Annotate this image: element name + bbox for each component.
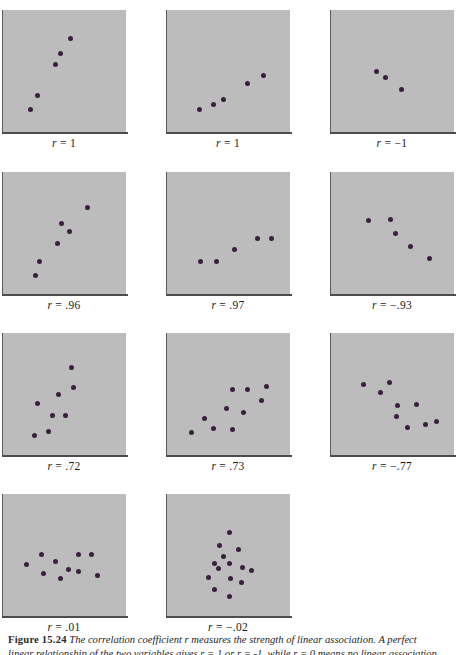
panel-correlation-label: r = .01 bbox=[2, 621, 126, 633]
data-point bbox=[236, 547, 241, 552]
data-point bbox=[383, 75, 388, 80]
data-point bbox=[230, 427, 235, 432]
data-point bbox=[35, 401, 40, 406]
data-point bbox=[50, 413, 55, 418]
panel-correlation-label: r = −.93 bbox=[330, 299, 454, 311]
data-point bbox=[66, 567, 71, 572]
data-point bbox=[427, 256, 432, 261]
scatter-plot-area bbox=[330, 333, 454, 456]
data-point bbox=[374, 69, 379, 74]
data-point bbox=[59, 221, 64, 226]
data-point bbox=[206, 575, 211, 580]
data-point bbox=[76, 569, 81, 574]
data-point bbox=[39, 552, 44, 557]
data-point bbox=[212, 587, 217, 592]
panel-correlation-label: r = 1 bbox=[166, 137, 290, 149]
data-point bbox=[245, 81, 250, 86]
data-point bbox=[33, 273, 38, 278]
data-point bbox=[395, 403, 400, 408]
data-point bbox=[264, 384, 269, 389]
figure-caption-text: The correlation coefficient r measures t… bbox=[69, 634, 416, 645]
scatter-panel: r = .73 bbox=[166, 333, 290, 478]
data-point bbox=[245, 387, 250, 392]
scatter-plot-area bbox=[2, 172, 126, 295]
scatter-panel: r = .96 bbox=[2, 172, 126, 317]
scatter-plot-area bbox=[330, 10, 454, 133]
scatter-panel: r = .97 bbox=[166, 172, 290, 317]
scatter-plot-area bbox=[166, 494, 290, 617]
data-point bbox=[261, 73, 266, 78]
scatter-plot-area bbox=[2, 333, 126, 456]
data-point bbox=[423, 422, 428, 427]
panel-correlation-label: r = 1 bbox=[2, 137, 126, 149]
data-point bbox=[198, 259, 203, 264]
panel-correlation-label: r = −.02 bbox=[166, 621, 290, 633]
data-point bbox=[55, 241, 60, 246]
data-point bbox=[189, 430, 194, 435]
data-point bbox=[58, 576, 63, 581]
data-point bbox=[405, 425, 410, 430]
data-point bbox=[227, 594, 232, 599]
data-point bbox=[41, 571, 46, 576]
data-point bbox=[202, 416, 207, 421]
data-point bbox=[378, 390, 383, 395]
data-point bbox=[217, 543, 222, 548]
scatter-plot-area bbox=[166, 172, 290, 295]
figure-panel-grid: r = 1r = 1r = −1r = .96r = .97r = −.93r … bbox=[0, 0, 460, 655]
data-point bbox=[76, 552, 81, 557]
data-point bbox=[89, 552, 94, 557]
data-point bbox=[239, 580, 244, 585]
data-point bbox=[221, 554, 226, 559]
data-point bbox=[393, 231, 398, 236]
data-point bbox=[67, 229, 72, 234]
scatter-panel: r = 1 bbox=[2, 10, 126, 155]
data-point bbox=[214, 259, 219, 264]
data-point bbox=[32, 433, 37, 438]
scatter-panel: r = −1 bbox=[330, 10, 454, 155]
data-point bbox=[46, 429, 51, 434]
data-point bbox=[230, 387, 235, 392]
data-point bbox=[240, 565, 245, 570]
panel-correlation-label: r = .72 bbox=[2, 460, 126, 472]
data-point bbox=[224, 406, 229, 411]
panel-correlation-label: r = .97 bbox=[166, 299, 290, 311]
scatter-plot-area bbox=[2, 494, 126, 617]
figure-caption: Figure 15.24 The correlation coefficient… bbox=[8, 634, 456, 647]
panel-correlation-label: r = .73 bbox=[166, 460, 290, 472]
data-point bbox=[221, 97, 226, 102]
data-point bbox=[228, 576, 233, 581]
figure-caption-line2: linear relationship of the two variables… bbox=[8, 648, 456, 655]
data-point bbox=[63, 413, 68, 418]
data-point bbox=[227, 530, 232, 535]
data-point bbox=[361, 382, 366, 387]
data-point bbox=[85, 205, 90, 210]
data-point bbox=[408, 244, 413, 249]
figure-number: Figure 15.24 bbox=[8, 634, 67, 645]
data-point bbox=[269, 236, 274, 241]
data-point bbox=[197, 107, 202, 112]
scatter-plot-area bbox=[166, 333, 290, 456]
data-point bbox=[71, 385, 76, 390]
scatter-panel: r = −.02 bbox=[166, 494, 290, 639]
data-point bbox=[56, 392, 61, 397]
data-point bbox=[387, 380, 392, 385]
scatter-panel: r = −.93 bbox=[330, 172, 454, 317]
data-point bbox=[434, 419, 439, 424]
data-point bbox=[399, 87, 404, 92]
scatter-panel: r = −.77 bbox=[330, 333, 454, 478]
data-point bbox=[388, 217, 393, 222]
scatter-panel: r = 1 bbox=[166, 10, 290, 155]
data-point bbox=[24, 562, 29, 567]
data-point bbox=[68, 36, 73, 41]
data-point bbox=[227, 561, 232, 566]
data-point bbox=[366, 218, 371, 223]
data-point bbox=[53, 559, 58, 564]
data-point bbox=[28, 107, 33, 112]
scatter-panel: r = .01 bbox=[2, 494, 126, 639]
data-point bbox=[259, 398, 264, 403]
data-point bbox=[37, 259, 42, 264]
data-point bbox=[69, 365, 74, 370]
scatter-panel: r = .72 bbox=[2, 333, 126, 478]
data-point bbox=[211, 426, 216, 431]
scatter-plot-area bbox=[2, 10, 126, 133]
